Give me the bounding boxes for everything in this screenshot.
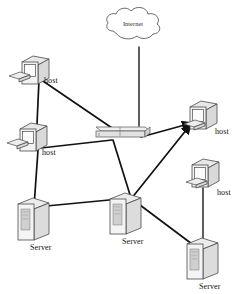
router-icon: [96, 127, 150, 137]
host2-label: host: [42, 148, 56, 157]
node-server3[interactable]: Server: [187, 238, 221, 291]
tower-server-icon: [110, 193, 141, 234]
tower-server-icon: [187, 238, 218, 279]
link-router-server2: [113, 140, 131, 198]
node-server2[interactable]: Server: [110, 193, 144, 246]
tower-server-icon: [18, 198, 49, 240]
server3-label: Server: [199, 282, 221, 291]
network-topology-diagram: Internet host host: [0, 0, 243, 294]
diagram-canvas: Internet host host: [0, 0, 243, 294]
desktop-computer-icon: [9, 56, 49, 84]
host4-label: host: [217, 188, 231, 197]
node-internet[interactable]: Internet: [107, 7, 160, 38]
node-host3[interactable]: host: [184, 101, 229, 136]
desktop-computer-icon: [7, 123, 47, 151]
desktop-computer-icon: [186, 159, 219, 188]
link-host1-router: [40, 79, 112, 128]
host3-label: host: [215, 127, 229, 136]
node-host4[interactable]: host: [186, 159, 231, 197]
node-server1[interactable]: Server: [18, 198, 52, 252]
desktop-computer-icon: [184, 101, 217, 130]
host1-label: host: [44, 76, 58, 85]
server1-label: Server: [30, 243, 52, 252]
server2-label: Server: [122, 237, 144, 246]
link-host2-router: [41, 140, 112, 148]
node-router[interactable]: [96, 127, 150, 137]
internet-label: Internet: [123, 20, 143, 27]
node-host2[interactable]: host: [7, 123, 56, 157]
node-host1[interactable]: host: [9, 56, 58, 85]
